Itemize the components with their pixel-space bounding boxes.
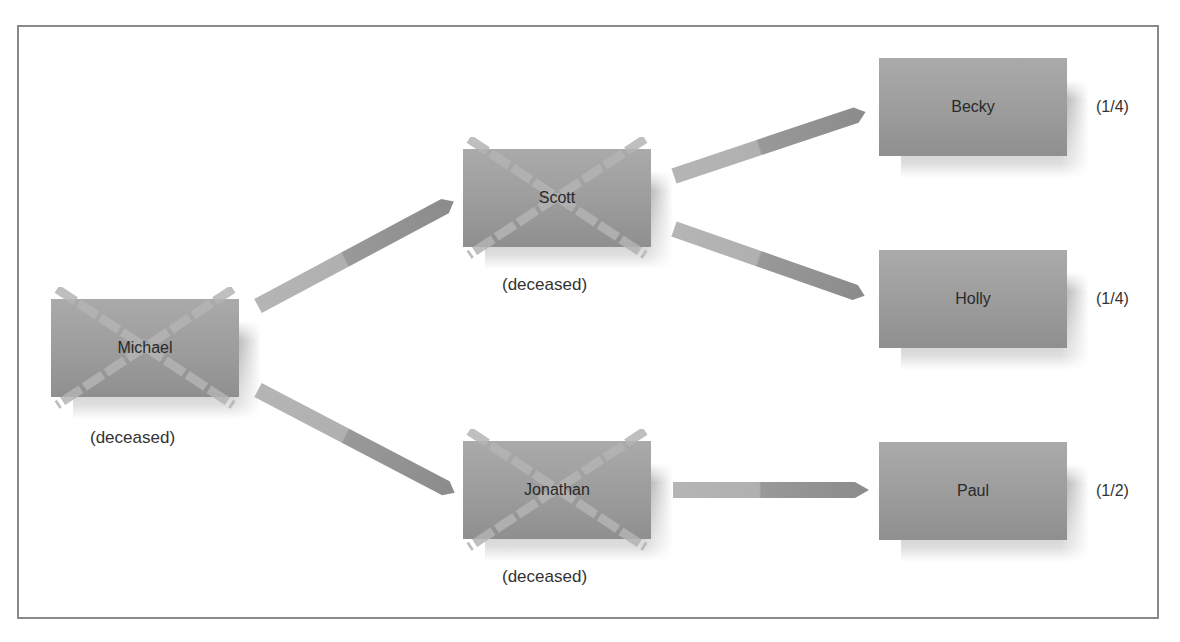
status-jonathan: (deceased) xyxy=(502,567,587,587)
node-paul: Paul xyxy=(879,442,1067,540)
status-michael: (deceased) xyxy=(90,428,175,448)
share-becky: (1/4) xyxy=(1096,98,1129,116)
node-name: Becky xyxy=(879,58,1067,156)
node-becky: Becky xyxy=(879,58,1067,156)
arrow-michael-to-jonathan xyxy=(254,383,458,500)
arrow-scott-to-becky xyxy=(671,104,868,183)
node-name: Paul xyxy=(879,442,1067,540)
status-scott: (deceased) xyxy=(502,275,587,295)
arrow-scott-to-holly xyxy=(671,221,867,303)
node-scott: Scott xyxy=(463,149,651,247)
share-holly: (1/4) xyxy=(1096,290,1129,308)
node-michael: Michael xyxy=(51,299,239,397)
share-paul: (1/2) xyxy=(1096,482,1129,500)
node-name: Jonathan xyxy=(463,441,651,539)
node-name: Holly xyxy=(879,250,1067,348)
node-name: Scott xyxy=(463,149,651,247)
arrow-jonathan-to-paul xyxy=(673,482,869,498)
node-jonathan: Jonathan xyxy=(463,441,651,539)
node-name: Michael xyxy=(51,299,239,397)
node-holly: Holly xyxy=(879,250,1067,348)
arrow-michael-to-scott xyxy=(254,194,457,313)
